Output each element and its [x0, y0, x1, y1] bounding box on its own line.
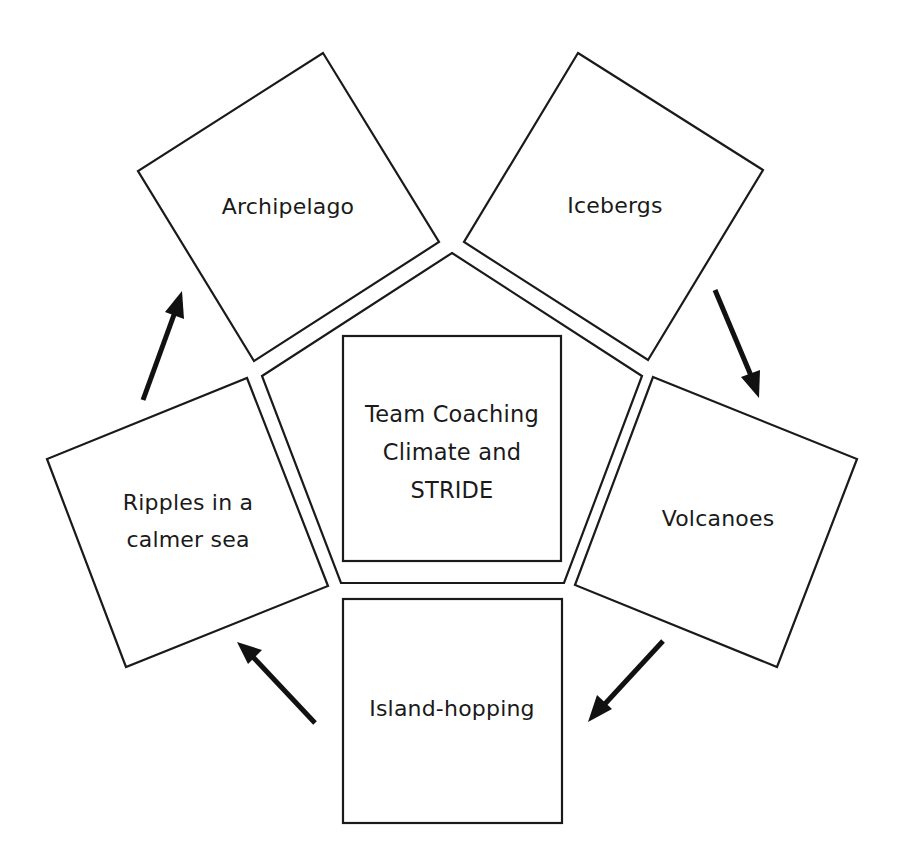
stage-ripples-label-line-1: Ripples in a — [123, 490, 253, 515]
stage-island-hopping: Island-hopping — [343, 599, 562, 823]
stage-island-hopping-label: Island-hopping — [369, 696, 535, 721]
team-coaching-cycle-diagram: Team Coaching Climate and STRIDE Archipe… — [0, 0, 899, 861]
stage-ripples-label-line-2: calmer sea — [126, 527, 249, 552]
center-label-line-1: Team Coaching — [364, 401, 539, 427]
center-label-line-2: Climate and — [383, 439, 521, 465]
arrow-volcanoes-to-island-hopping-icon — [588, 641, 663, 722]
stage-volcanoes-label: Volcanoes — [662, 506, 775, 531]
arrow-island-hopping-to-ripples-icon — [237, 642, 315, 723]
stage-archipelago-label: Archipelago — [222, 194, 354, 219]
center-box: Team Coaching Climate and STRIDE — [343, 336, 561, 561]
arrow-ripples-to-archipelago-icon — [143, 291, 184, 400]
stage-icebergs-label: Icebergs — [567, 193, 662, 218]
arrow-icebergs-to-volcanoes-icon — [715, 290, 760, 398]
center-label-line-3: STRIDE — [410, 477, 493, 503]
